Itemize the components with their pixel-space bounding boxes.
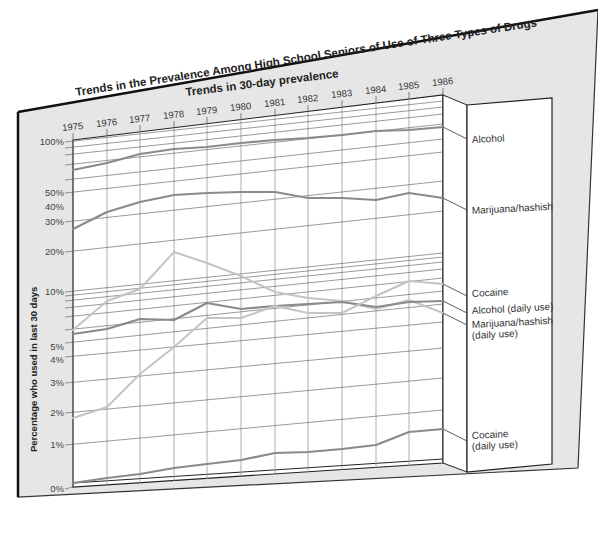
plot-side-face xyxy=(443,95,467,472)
ytick-2: 2% xyxy=(50,407,64,418)
ytick-0: 0% xyxy=(50,483,64,494)
year-1982: 1982 xyxy=(297,92,319,105)
year-1985: 1985 xyxy=(398,79,420,92)
ytick-50: 50% xyxy=(45,187,65,198)
ytick-1: 1% xyxy=(50,439,64,450)
year-1978: 1978 xyxy=(163,108,185,121)
ytick-4: 4% xyxy=(50,354,64,365)
year-1976: 1976 xyxy=(96,116,118,129)
legend-box xyxy=(467,98,552,472)
year-1984: 1984 xyxy=(365,83,387,96)
ytick-40: 40% xyxy=(45,201,65,212)
year-1986: 1986 xyxy=(432,75,454,88)
chart-canvas: 100% 50% 40% 30% 20% 10% 5% 4% 3% 2% 1% … xyxy=(0,0,598,554)
year-1980: 1980 xyxy=(230,100,252,113)
year-1977: 1977 xyxy=(129,112,151,125)
year-1975: 1975 xyxy=(62,120,84,133)
legend-alcohol: Alcohol xyxy=(472,132,505,145)
ytick-10: 10% xyxy=(45,286,65,297)
ytick-3: 3% xyxy=(50,377,64,388)
year-1983: 1983 xyxy=(331,87,353,100)
ytick-30: 30% xyxy=(45,216,65,227)
legend-cocaine: Cocaine xyxy=(472,286,510,299)
ytick-20: 20% xyxy=(45,246,65,257)
y-axis-label: Percentage who used in last 30 days xyxy=(28,287,39,452)
year-1981: 1981 xyxy=(264,96,286,109)
year-1979: 1979 xyxy=(196,104,218,117)
ytick-100: 100% xyxy=(40,136,65,147)
ytick-5: 5% xyxy=(50,341,64,352)
